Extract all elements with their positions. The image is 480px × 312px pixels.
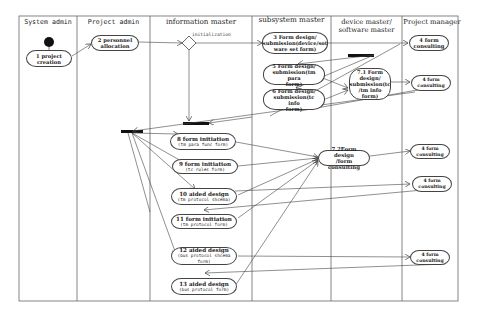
swimlane-frame — [19, 16, 458, 301]
node-text: shcema) — [212, 197, 231, 202]
node-text: 4 form — [421, 252, 438, 257]
lane-system-admin: System admin — [19, 18, 77, 26]
activity-4-form-consulting-d[interactable]: 4 formconsulting — [412, 176, 452, 192]
activity-12-aided-design-bus-protocol-schema[interactable]: 12 aided design(bus protocol shcema form… — [171, 247, 237, 265]
activity-1-project-creation[interactable]: 1 projectcreation — [26, 50, 72, 67]
node-text: (bus protocol — [179, 287, 213, 292]
lane-information-master: information master — [150, 18, 252, 26]
node-text: (bus protocol — [178, 253, 212, 258]
activity-4-form-consulting-e[interactable]: 4 formconsulting — [410, 250, 450, 265]
activity-3-form-design-device[interactable]: 3 Form design/submission(device/sotware … — [262, 32, 328, 54]
lane-project-admin: Project admin — [77, 18, 150, 26]
node-text: creation — [37, 59, 61, 65]
node-text: /tm info form) — [358, 87, 381, 99]
node-text: consulting — [418, 184, 445, 189]
activity-4-form-consulting-a[interactable]: 4 formconsulting — [409, 35, 449, 51]
node-text: (tm para func — [178, 142, 212, 147]
node-text: 4 form — [422, 77, 439, 82]
node-text: consulting — [417, 83, 444, 88]
node-text: submission(tm para — [272, 69, 315, 81]
node-text: 7.2Form design — [331, 146, 356, 158]
node-text: (tc rules form) — [179, 167, 231, 173]
node-text: form) — [286, 106, 302, 112]
activity-8-form-initiation-tm-para-func[interactable]: 8 form initiation(tm para func form) — [170, 133, 236, 150]
activity-10-aided-design-tm-protocol[interactable]: 10 aided design(tm protocol shcema) — [171, 188, 237, 205]
activity-4-form-consulting-c[interactable]: 4 formconsulting — [410, 144, 450, 159]
fork-bar-left — [121, 130, 143, 133]
node-text: /form consulting — [328, 158, 360, 170]
node-text: form) — [286, 81, 302, 87]
node-text: 9 form initiation — [179, 161, 231, 167]
activity-9-form-initiation-tc-rules[interactable]: 9 form initiation(tc rules form) — [172, 159, 238, 174]
activity-6-form-design-tc-info[interactable]: 6 Form design/submission(tc infoform) — [263, 89, 325, 110]
initial-node — [44, 37, 54, 47]
node-text: 4 form — [421, 146, 438, 151]
activity-4-form-consulting-b[interactable]: 4 formconsulting — [411, 75, 451, 91]
decision-node — [182, 36, 196, 50]
activity-13-aided-design-bus-protocol-form[interactable]: 13 aided design(bus protocol form) — [171, 278, 237, 295]
node-text: consulting — [414, 43, 445, 49]
activity-5-form-design-tm-para[interactable]: 5 Form design/submission(tm paraform) — [263, 64, 325, 85]
node-text: 4 form — [423, 178, 440, 183]
node-text: ware set form) — [274, 46, 316, 52]
node-text: (tm protocol — [178, 197, 210, 202]
node-text: form) — [215, 142, 228, 147]
node-text: 11 form initiation — [176, 216, 232, 222]
lane-device-software-master: device master/ software master — [331, 18, 402, 34]
node-text: (tm protocol form) — [176, 222, 232, 228]
lane-project-manager: Project manager — [402, 18, 462, 26]
activity-2-personnel-allocation[interactable]: 2 personnelallocation — [91, 35, 139, 51]
node-text: consulting — [416, 258, 443, 263]
lane-subsystem-master: subsystem master — [252, 16, 331, 24]
activity-11-form-initiation-tm-protocol[interactable]: 11 form initiation(tm protocol form) — [171, 214, 237, 229]
node-text: form) — [216, 287, 229, 292]
activity-diagram — [0, 0, 480, 312]
node-text: allocation — [101, 43, 130, 49]
guard-initialization: initialization — [192, 32, 231, 37]
node-text: submission(tc info — [274, 94, 315, 106]
activity-7-1-form-design-tc-tm-info[interactable]: 7.1 Formdesign/submission(tc/tm info for… — [349, 68, 391, 100]
activity-7-2-form-design-consulting[interactable]: 7.2Form design/form consulting — [318, 150, 370, 166]
node-text: consulting — [416, 152, 443, 157]
